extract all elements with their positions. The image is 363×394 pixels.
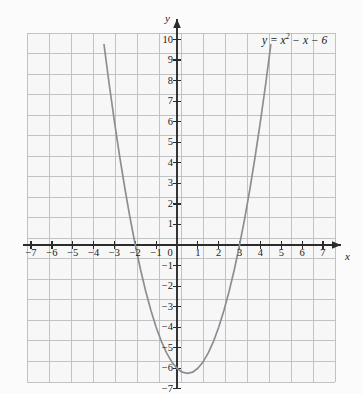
x-axis-arrow-icon — [332, 241, 341, 249]
x-axis-label: x — [345, 251, 350, 262]
coordinate-plane — [0, 0, 363, 394]
graph-figure: y x 0 −7−6−5−4−3−2−1123456710987654321−1… — [0, 0, 363, 394]
equation-prefix: y = x — [262, 34, 286, 46]
y-axis-arrow-icon — [173, 19, 181, 28]
curve-equation-label: y = x2 − x − 6 — [262, 35, 327, 47]
equation-suffix: − x − 6 — [289, 34, 327, 46]
y-axis-label: y — [165, 13, 170, 24]
